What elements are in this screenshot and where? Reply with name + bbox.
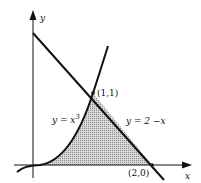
intersection-label: (1,1) [97,88,118,98]
x-axis-label: x [185,171,190,181]
x-intercept-point [150,163,154,167]
region-diagram: y x (1,1) (2,0) y = x3 y = 2 −x [0,0,201,183]
x-axis-arrow-icon [182,162,192,169]
cubic-label-base: y = x [51,115,75,125]
intersection-point [91,91,95,95]
cubic-label-exponent: 3 [75,113,80,121]
cubic-label: y = x3 [51,113,80,125]
x-intercept-label: (2,0) [128,168,149,178]
line-label: y = 2 −x [125,116,166,126]
y-axis-label: y [39,13,46,23]
y-axis-arrow-icon [30,10,37,20]
